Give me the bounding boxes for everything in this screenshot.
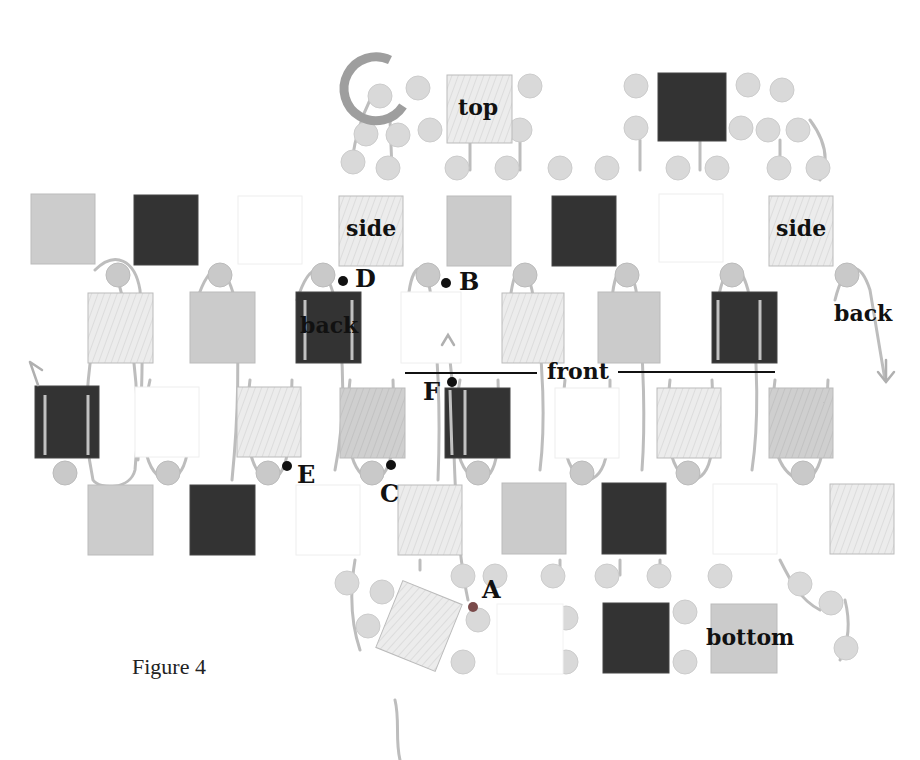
label-side-left: side: [346, 217, 396, 239]
label-bottom: bottom: [706, 626, 794, 648]
label-back-right: back: [834, 302, 892, 324]
arrow-down-right-icon: [878, 360, 894, 382]
label-top: top: [458, 96, 498, 118]
arrow-up-left-icon: [30, 362, 42, 385]
label-point-e: E: [297, 463, 315, 487]
label-point-b: B: [459, 270, 479, 294]
label-point-c: C: [380, 482, 399, 506]
label-point-f: F: [423, 380, 440, 404]
beading-diagram: top side side back back front bottom D B…: [0, 0, 920, 760]
figure-caption: Figure 4: [132, 654, 206, 680]
label-side-right: side: [776, 217, 826, 239]
point-f-marker: [447, 377, 457, 387]
point-b-marker: [441, 278, 451, 288]
label-point-a: A: [482, 578, 501, 602]
label-back-left: back: [300, 314, 358, 336]
point-d-marker: [338, 276, 348, 286]
point-a-marker: [468, 602, 478, 612]
label-point-d: D: [355, 267, 376, 291]
label-front: front: [547, 360, 609, 382]
point-e-marker: [282, 461, 292, 471]
point-c-marker: [386, 460, 396, 470]
